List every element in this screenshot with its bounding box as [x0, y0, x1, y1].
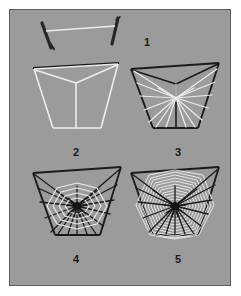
- step-5-drawing: [127, 162, 223, 248]
- figure-root: 1 2: [0, 0, 241, 296]
- step-label-3: 3: [167, 146, 189, 158]
- panel-step-3: [127, 58, 223, 140]
- bridge-thread-line: [46, 26, 115, 31]
- illustration-plate: 1 2: [9, 9, 231, 286]
- step-4-drawing: [29, 162, 125, 248]
- panel-step-1: [24, 16, 154, 62]
- hub-y-radii: [35, 65, 117, 128]
- panel-step-2: [29, 58, 123, 140]
- step-label-1: 1: [136, 36, 158, 48]
- panel-step-5: [127, 162, 223, 248]
- step-label-2: 2: [65, 146, 87, 158]
- step-label-4: 4: [65, 253, 87, 265]
- step-2-drawing: [29, 58, 123, 140]
- twig-right-icon: [112, 17, 120, 44]
- step-label-5: 5: [167, 253, 189, 265]
- step-1-drawing: [24, 16, 154, 62]
- panel-step-4: [29, 162, 125, 248]
- step-3-drawing: [127, 58, 223, 140]
- twig-left-icon: [42, 23, 54, 49]
